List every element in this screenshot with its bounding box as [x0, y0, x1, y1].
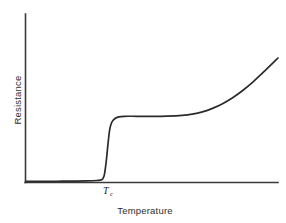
y-axis-label: Resistance: [12, 76, 23, 125]
x-axis-label: Temperature: [117, 205, 173, 216]
chart-background: [0, 0, 286, 223]
resistance-temperature-chart: Resistance Temperature T c: [0, 0, 286, 223]
critical-temperature-subscript: c: [110, 190, 113, 197]
chart-figure: Resistance Temperature T c: [0, 0, 286, 223]
